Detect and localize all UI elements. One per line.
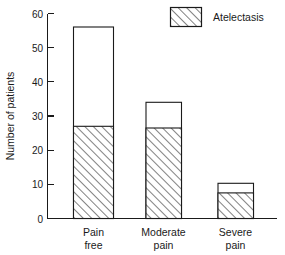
y-tick-label-50: 50: [32, 43, 44, 54]
y-tick-label-60: 60: [32, 9, 44, 20]
bar-group-moderate-pain: [146, 102, 182, 218]
bar-atelectasis-severe-pain: [218, 193, 254, 219]
legend-swatch-atelectasis: [171, 8, 202, 27]
bar-group-severe-pain: [218, 183, 254, 218]
y-axis: 60 50 40 30 20 10 0 Number of patients: [4, 9, 54, 225]
category-labels: Pain free Moderate pain Severe pain: [83, 226, 252, 251]
y-tick-label-30: 30: [32, 111, 44, 122]
legend: Atelectasis: [171, 8, 264, 27]
chart-svg: 60 50 40 30 20 10 0 Number of patients: [0, 0, 285, 255]
bar-atelectasis-pain-free: [74, 126, 114, 218]
y-tick-label-40: 40: [32, 77, 44, 88]
y-tick-label-20: 20: [32, 145, 44, 156]
y-tick-label-10: 10: [32, 179, 44, 190]
category-label-severe-pain-line1: Severe: [219, 226, 252, 238]
bar-atelectasis-moderate-pain: [146, 128, 182, 219]
bar-group-pain-free: [74, 27, 114, 219]
category-label-moderate-pain-line2: pain: [154, 239, 174, 251]
category-label-moderate-pain-line1: Moderate: [141, 226, 186, 238]
category-label-pain-free-line1: Pain: [83, 226, 104, 238]
atelectasis-bar-chart: 60 50 40 30 20 10 0 Number of patients: [0, 0, 285, 255]
category-label-pain-free-line2: free: [84, 239, 102, 251]
legend-label-atelectasis: Atelectasis: [213, 11, 264, 23]
y-axis-title: Number of patients: [4, 72, 16, 161]
y-tick-label-0: 0: [37, 214, 43, 225]
category-label-severe-pain-line2: pain: [226, 239, 246, 251]
